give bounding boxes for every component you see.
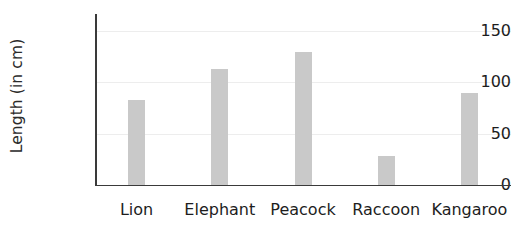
x-axis-tick-label: Raccoon xyxy=(345,196,428,224)
bar xyxy=(211,69,228,185)
x-axis-tick-label: Kangaroo xyxy=(428,196,511,224)
bar xyxy=(461,93,478,185)
bars-layer xyxy=(0,0,519,185)
x-axis-tick-label: Peacock xyxy=(261,196,344,224)
x-axis-tick-label: Elephant xyxy=(178,196,261,224)
x-axis-tick-labels: LionElephantPeacockRaccoonKangaroo xyxy=(95,196,511,224)
bar xyxy=(378,156,395,185)
x-axis-tick-label: Lion xyxy=(95,196,178,224)
bar-chart: Length (in cm) 050100150 LionElephantPea… xyxy=(0,0,519,238)
bar xyxy=(295,52,312,185)
bar xyxy=(128,100,145,185)
